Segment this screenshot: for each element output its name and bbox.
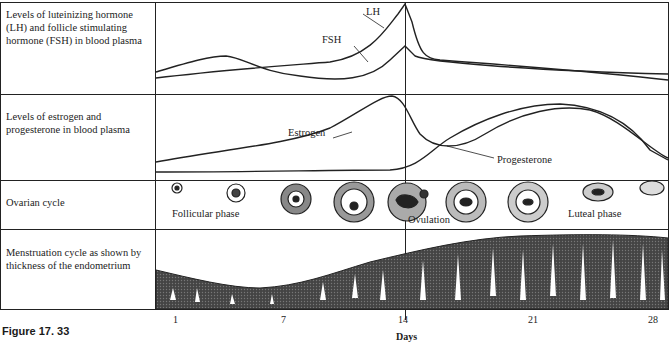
figure-caption: Figure 17. 33 — [2, 325, 69, 337]
annotation-follicular-phase: Follicular phase — [172, 208, 239, 219]
x-tick: 21 — [528, 314, 538, 325]
x-tick: 7 — [281, 314, 286, 325]
annotation-ovulation: Ovulation — [408, 214, 450, 225]
curve-label-progesterone: Progesterone — [497, 154, 552, 165]
x-axis-label: Days — [396, 331, 417, 342]
x-tick: 28 — [648, 314, 658, 325]
menstrual-cycle-diagram: Levels of luteinizing hormone (LH) and f… — [0, 0, 669, 310]
x-tick: 14 — [398, 314, 408, 325]
x-tick: 1 — [173, 314, 178, 325]
curve-label-estrogen: Estrogen — [288, 127, 325, 138]
annotation-luteal-phase: Luteal phase — [568, 208, 621, 219]
curve-label-fsh: FSH — [322, 34, 341, 45]
curve-label-lh: LH — [366, 6, 380, 17]
cycle-curves — [0, 0, 669, 342]
